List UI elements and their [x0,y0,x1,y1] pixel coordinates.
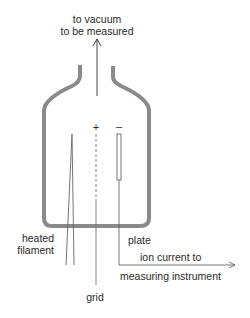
heated-filament [66,134,74,265]
minus-sign: – [116,120,122,132]
label-to-be-measured: to be measured [61,25,134,37]
inlet-arrow [93,39,101,96]
label-ion-current: ion current to [140,251,201,263]
label-filament: filament [17,244,54,256]
label-to-vacuum: to vacuum [73,13,121,25]
plate-electrode [117,134,121,265]
label-heated: heated [22,232,54,244]
label-grid: grid [86,291,104,303]
ionization-gauge-diagram: to vacuum to be measured + – heated fila… [0,0,250,318]
label-plate: plate [128,234,151,246]
plus-sign: + [93,121,99,133]
label-measuring-instrument: measuring instrument [120,270,221,282]
